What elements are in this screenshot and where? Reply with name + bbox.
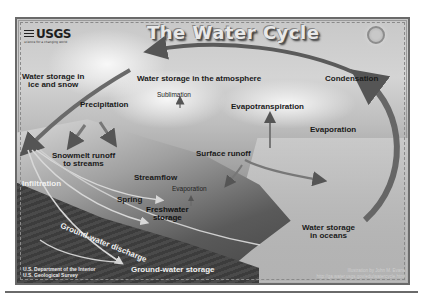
label-oceans: Water storage in oceans	[302, 224, 355, 241]
atmosphere-flow-arrow-icon	[155, 45, 355, 73]
label-sublimation: Sublimation	[157, 92, 191, 99]
label-evaporation-ocean: Evaporation	[310, 126, 356, 134]
label-precipitation: Precipitation	[80, 101, 128, 109]
horizontal-divider	[5, 291, 418, 293]
label-ice-snow-line2: ice and snow	[22, 81, 84, 89]
precipitation-down-arrow-icon	[100, 122, 112, 140]
evaporation-arrow-icon	[365, 80, 397, 220]
label-ice-snow: Water storage in ice and snow	[22, 73, 84, 90]
surface-runoff-arrow-icon	[245, 160, 320, 180]
label-condensation: Condensation	[325, 75, 378, 83]
label-freshwater: Freshwater storage	[146, 206, 189, 223]
label-spring: Spring	[117, 196, 142, 204]
label-oceans-line2: in oceans	[302, 232, 355, 240]
surface-runoff-arrow-icon	[228, 165, 242, 183]
credit-url: http://ga.water.usgs.gov/edu/watercycle.…	[316, 274, 405, 279]
label-evapotranspiration: Evapotranspiration	[231, 103, 304, 111]
label-freshwater-line2: storage	[146, 214, 189, 222]
label-surface-runoff: Surface runoff	[196, 150, 251, 158]
agency-credits: U.S. Department of the Interior U.S. Geo…	[23, 266, 96, 278]
label-streamflow: Streamflow	[134, 174, 177, 182]
label-snowmelt: Snowmelt runoff to streams	[52, 152, 115, 169]
label-atmosphere: Water storage in the atmosphere	[137, 75, 261, 83]
label-snowmelt-line2: to streams	[52, 160, 115, 168]
label-groundwater-storage: Ground-water storage	[131, 266, 215, 274]
credit-agency-line2: U.S. Geological Survey	[23, 272, 96, 278]
illustration-credits: Illustration by John M. Evans http://ga.…	[316, 268, 405, 279]
precipitation-down-arrow-icon	[72, 125, 85, 143]
label-evaporation-lake: Evaporation	[172, 186, 207, 193]
label-infiltration: Infiltration	[22, 180, 61, 188]
